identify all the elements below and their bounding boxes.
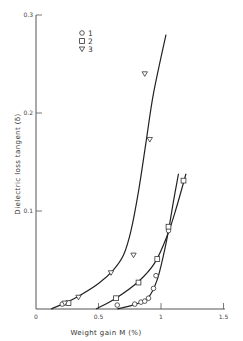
series-3-point [131, 253, 136, 258]
x-tick-label: 1.5 [219, 313, 229, 320]
legend: 123 [79, 29, 93, 54]
markers [60, 72, 186, 308]
chart: 00.511.50.10.20.3 123 Weight gain M (%) … [0, 0, 243, 341]
x-tick-label: 0.5 [94, 313, 104, 320]
series-2-point [155, 257, 160, 262]
series-2-point [136, 280, 141, 285]
x-tick-label: 1 [159, 313, 163, 320]
y-tick-label: 0.1 [23, 207, 33, 214]
legend-marker-1 [80, 31, 85, 36]
legend-label-3: 3 [88, 45, 93, 54]
series-1-point [146, 296, 151, 301]
series-1-point [115, 303, 120, 308]
series-2-curve [96, 174, 186, 309]
ticks: 00.511.50.10.20.3 [23, 11, 228, 320]
legend-marker-3 [79, 47, 84, 52]
series-3-point [142, 72, 147, 77]
curves [51, 35, 186, 309]
x-tick-label: 0 [34, 313, 38, 320]
legend-marker-2 [80, 39, 85, 44]
x-axis-title: Weight gain M (%) [70, 329, 141, 337]
series-2-point [166, 224, 171, 229]
series-1-point [154, 273, 159, 278]
series-1-curve [117, 174, 178, 309]
axes [36, 15, 225, 309]
series-2-point [114, 296, 119, 301]
series-3-point [147, 137, 152, 142]
y-tick-label: 0.3 [23, 11, 33, 18]
series-1-point [151, 286, 156, 291]
y-tick-label: 0.2 [23, 109, 33, 116]
series-3-curve [51, 35, 166, 309]
y-axis-title: Dielectric loss tangent (δ) [14, 113, 22, 214]
series-2-point [181, 178, 186, 183]
series-1-point [132, 302, 137, 307]
